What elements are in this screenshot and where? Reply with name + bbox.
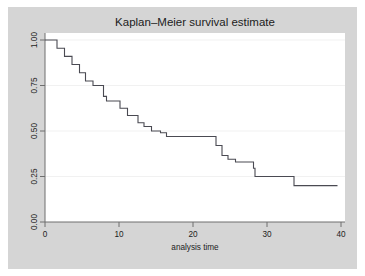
figure-background: 1.00 0.75 0.50 0.25 0.00 0 10 20 30 40 a… — [8, 7, 357, 269]
kaplan-meier-chart: 1.00 0.75 0.50 0.25 0.00 0 10 20 30 40 a… — [8, 7, 357, 269]
chart-title: Kaplan–Meier survival estimate — [115, 16, 275, 28]
x-tick-label-20: 20 — [188, 230, 198, 239]
y-axis-ticks — [40, 40, 45, 222]
y-tick-label-0.00: 0.00 — [30, 214, 39, 230]
x-axis-ticks — [45, 222, 341, 227]
y-tick-label-0.50: 0.50 — [30, 123, 39, 139]
x-tick-label-10: 10 — [114, 230, 124, 239]
x-axis-label: analysis time — [171, 243, 219, 252]
y-tick-label-1.00: 1.00 — [30, 32, 39, 48]
plot-area — [45, 33, 345, 222]
x-tick-label-30: 30 — [262, 230, 272, 239]
x-tick-label-0: 0 — [43, 230, 48, 239]
y-tick-label-0.75: 0.75 — [30, 77, 39, 93]
y-tick-label-0.25: 0.25 — [30, 168, 39, 184]
chart-canvas: 1.00 0.75 0.50 0.25 0.00 0 10 20 30 40 a… — [8, 7, 357, 269]
x-tick-label-40: 40 — [336, 230, 346, 239]
